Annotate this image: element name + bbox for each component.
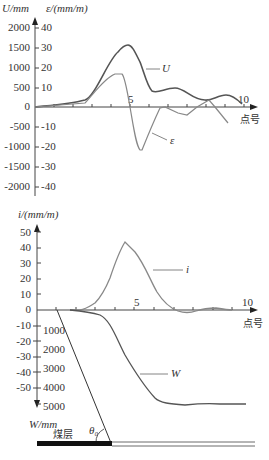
top-x-arrow-icon <box>250 104 258 110</box>
svg-text:-20: -20 <box>41 140 56 152</box>
svg-text:5000: 5000 <box>43 400 66 412</box>
w-curve <box>70 310 246 405</box>
svg-text:40: 40 <box>41 21 53 33</box>
svg-text:1500: 1500 <box>8 41 31 53</box>
svg-text:1000: 1000 <box>8 61 31 73</box>
bottom-chart: i/(mm/m) 50 40 30 20 10 0 -10 -20 -30 -4… <box>16 208 263 430</box>
svg-text:-1500: -1500 <box>4 160 30 172</box>
top-y-right-label: ε/(mm/m) <box>46 2 88 15</box>
svg-text:40: 40 <box>20 241 32 253</box>
bottom-x-tick-10: 10 <box>242 296 254 308</box>
top-left-ticks: 2000 1500 1000 500 0 -500 -1000 -1500 -2… <box>4 21 30 192</box>
svg-text:-40: -40 <box>16 366 31 378</box>
seam-label: 煤层 <box>53 428 73 440</box>
svg-text:-10: -10 <box>41 120 56 132</box>
svg-text:1000: 1000 <box>43 324 66 336</box>
top-y-left-label: U/mm <box>2 2 29 14</box>
svg-text:-40: -40 <box>41 180 56 192</box>
svg-text:500: 500 <box>14 81 31 93</box>
svg-text:-50: -50 <box>16 381 31 393</box>
draw-angle-line <box>57 310 111 443</box>
svg-text:-10: -10 <box>16 319 31 331</box>
epsilon-curve-label: ε <box>170 134 175 146</box>
bottom-w-ticks: 1000 2000 3000 4000 5000 <box>43 324 66 412</box>
bottom-i-ticks: 50 40 30 20 10 0 -10 -20 -30 -40 -50 <box>16 226 31 393</box>
svg-text:10: 10 <box>41 81 53 93</box>
svg-text:0: 0 <box>26 303 32 315</box>
bottom-x-tick-5: 5 <box>134 296 140 308</box>
svg-text:20: 20 <box>20 272 32 284</box>
coal-seam: θ₀ 煤层 <box>37 310 255 446</box>
u-curve-label: U <box>162 62 171 74</box>
svg-text:50: 50 <box>20 226 32 238</box>
top-chart: U/mm ε/(mm/m) 2000 1500 1000 500 0 -500 … <box>2 2 260 196</box>
bottom-y-up-arrow-icon <box>34 224 40 232</box>
epsilon-curve <box>35 74 228 150</box>
svg-text:10: 10 <box>20 288 32 300</box>
theta-label: θ₀ <box>89 424 98 436</box>
svg-text:4000: 4000 <box>43 381 66 393</box>
i-curve-label: i <box>186 263 189 275</box>
svg-text:2000: 2000 <box>43 343 66 355</box>
w-curve-label: W <box>171 367 181 379</box>
svg-text:-2000: -2000 <box>4 180 30 192</box>
top-x-tick-10: 10 <box>238 93 250 105</box>
svg-text:-1000: -1000 <box>4 140 30 152</box>
mined-seam-bar <box>37 441 112 446</box>
svg-text:20: 20 <box>41 61 53 73</box>
top-x-label: 点号 <box>240 114 260 125</box>
svg-text:30: 30 <box>41 41 53 53</box>
svg-text:-30: -30 <box>16 350 31 362</box>
i-curve <box>70 242 232 313</box>
svg-text:-30: -30 <box>41 160 56 172</box>
u-curve <box>35 45 242 107</box>
svg-text:-20: -20 <box>16 335 31 347</box>
svg-text:3000: 3000 <box>43 362 66 374</box>
top-y-arrow-icon <box>32 17 38 25</box>
svg-text:2000: 2000 <box>8 21 31 33</box>
figure: U/mm ε/(mm/m) 2000 1500 1000 500 0 -500 … <box>0 0 269 460</box>
bottom-x-label: 点号 <box>243 318 263 329</box>
bottom-y-label: i/(mm/m) <box>18 208 59 221</box>
svg-text:30: 30 <box>20 257 32 269</box>
svg-text:-500: -500 <box>10 120 31 132</box>
svg-text:0: 0 <box>25 100 31 112</box>
